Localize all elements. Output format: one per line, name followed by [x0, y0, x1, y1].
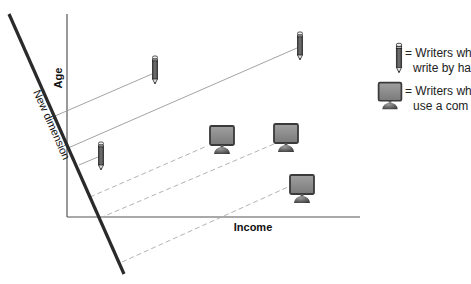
legend-computer-line1: = Writers wh — [405, 84, 471, 98]
legend-hand-line1: = Writers wh — [405, 46, 471, 60]
diagram-canvas: Age Income New dimension = Writers wh wr… — [0, 0, 471, 284]
pencil-icon — [153, 56, 158, 84]
computer-icon — [210, 126, 234, 154]
projection-line-solid — [79, 157, 98, 165]
legend-computer-icon — [379, 83, 402, 110]
projection-line-dashed — [90, 146, 207, 197]
x-axis-label: Income — [234, 221, 273, 233]
computer-icon — [274, 124, 298, 152]
legend-hand-line2: write by ha — [412, 61, 471, 75]
pencil-icon — [298, 32, 303, 60]
legend-computer-line2: use a com — [413, 99, 468, 113]
y-axis-label: Age — [52, 68, 64, 89]
projection-line-solid — [55, 74, 152, 116]
legend: = Writers wh write by ha = Writers wh us… — [379, 43, 471, 113]
legend-pencil-icon — [396, 43, 401, 72]
legend-item-computer: = Writers wh use a com — [379, 83, 471, 113]
pencil-icon — [99, 142, 104, 170]
projection-line-solid — [68, 48, 297, 148]
legend-item-hand: = Writers wh write by ha — [396, 43, 471, 75]
computer-icon — [290, 175, 314, 203]
